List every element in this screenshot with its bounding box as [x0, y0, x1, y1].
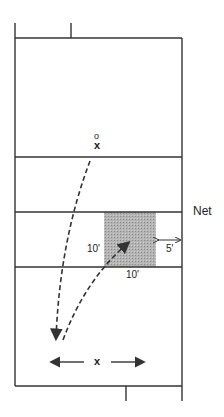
player-bottom-marker: x: [94, 356, 100, 367]
zone-depth-label: 10': [87, 244, 100, 254]
net-label: Net: [193, 205, 212, 217]
target-zone: [104, 212, 156, 267]
zone-width-label: 10': [126, 270, 139, 280]
player-top-marker: x: [94, 140, 100, 151]
serve-path: [56, 161, 90, 338]
sideline-gap-label: 5': [166, 244, 173, 254]
court-diagram: [0, 0, 224, 417]
